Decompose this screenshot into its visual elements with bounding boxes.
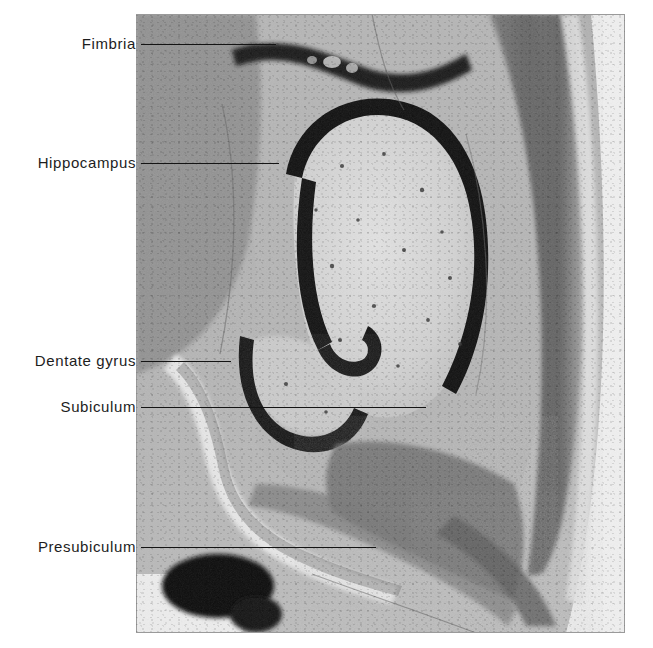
label-fimbria: Fimbria (82, 35, 136, 52)
label-presubiculum: Presubiculum (38, 538, 136, 555)
label-hippocampus: Hippocampus (38, 154, 136, 171)
label-dentate-gyrus: Dentate gyrus (35, 352, 136, 369)
photomicrograph (136, 14, 625, 633)
label-subiculum: Subiculum (61, 398, 136, 415)
figure-root: Fimbria Hippocampus Dentate gyrus Subicu… (0, 0, 653, 648)
tissue-section-image (136, 14, 625, 633)
